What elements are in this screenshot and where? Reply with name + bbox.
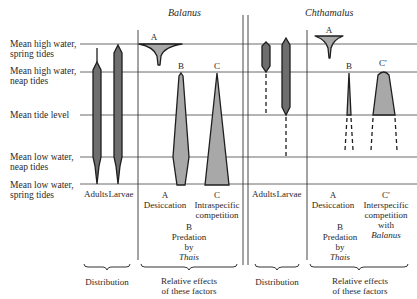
balanus-larvae-bar [114,45,122,184]
tide-label-mean-tide: Mean tide level [10,110,69,120]
balanus-factor-a-label: A Desiccation [144,190,186,210]
chthamalus-factor-c-shape [371,72,397,150]
balanus-larvae-label: Larvae [109,189,134,199]
chthamalus-factors-brace [310,264,408,270]
chthamalus-distribution-brace [255,264,299,270]
balanus-letter-c: C [214,61,220,71]
chthamalus-factor-a-shape [315,36,343,58]
balanus-factor-b-label: B Predation by Thais [172,222,207,262]
chthamalus-letter-c: C′ [379,58,387,68]
tide-label-mhw-spring: Mean high water, spring tides [10,39,76,59]
chthamalus-factor-b-shape [345,73,353,150]
balanus-factors-caption: Relative effects of these factors [161,276,217,296]
balanus-letter-b: B [178,61,184,71]
chthamalus-larvae-label: Larvae [277,189,302,199]
balanus-distribution-caption: Distribution [85,277,129,287]
tide-label-mlw-spring: Mean low water, spring tides [10,180,74,200]
tide-label-mlw-neap: Mean low water, neap tides [10,152,74,172]
balanus-factor-a-shape [139,44,182,65]
chthamalus-letter-b: B [346,61,352,71]
tide-lines [80,44,417,184]
balanus-adults-bar [93,48,101,184]
balanus-factors-brace [141,264,237,270]
tide-label-mhw-neap: Mean high water, neap tides [10,66,76,86]
chthamalus-adults-label: Adults [252,189,276,199]
balanus-factor-c-shape [205,73,229,185]
chthamalus-distribution-caption: Distribution [255,277,299,287]
chthamalus-factors-caption: Relative effects of these factors [332,276,388,296]
braces [84,264,408,270]
balanus-adults-label: Adults [84,189,108,199]
chthamalus-title: Chthamalus [305,8,353,18]
chthamalus-letter-a: A [326,25,333,35]
chthamalus-factor-c-label: C′ Interspecific competition with Balanu… [364,190,409,240]
chthamalus-factor-a-label: A Desiccation [312,190,354,210]
chthamalus-factor-b-label: B Predation by Thais [323,222,358,262]
balanus-factor-c-label: C Intraspecific competition [195,190,240,220]
balanus-distribution-brace [84,264,130,270]
balanus-title: Balanus [168,8,201,18]
balanus-letter-a: A [151,32,158,42]
balanus-factor-b-shape [173,73,189,185]
chthamalus-larvae-bar [282,38,290,157]
chthamalus-adults-bar [262,42,270,115]
